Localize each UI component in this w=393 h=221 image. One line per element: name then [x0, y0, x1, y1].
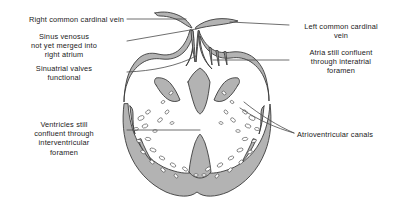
endocardial-cushion-left — [155, 78, 181, 102]
label-right-common-cardinal-vein: Right common cardinal vein — [4, 15, 124, 24]
leader-sinus-venosus — [127, 29, 196, 41]
label-atria-confluent: Atria still confluent through interatria… — [292, 48, 390, 76]
right-common-cardinal-vein-shape — [155, 12, 192, 28]
label-left-common-cardinal-vein: Left common cardinal vein — [292, 22, 390, 40]
label-ventricles-confluent: Ventricles still confluent through inter… — [4, 120, 124, 157]
heart-wall-group — [123, 12, 271, 196]
label-atrioventricular-canals: Atrioventricular canals — [297, 130, 392, 139]
sinuatrial-valve-right — [196, 31, 199, 62]
left-atrium-wall — [124, 30, 194, 102]
left-common-cardinal-vein-shape — [196, 19, 238, 29]
label-sinus-venosus: Sinus venosus not yet merged into right … — [4, 32, 124, 60]
interventricular-septum — [189, 134, 211, 178]
label-sinuatrial-valves: Sinuatrial valves functional — [4, 64, 124, 82]
figure-canvas: Right common cardinal vein Sinus venosus… — [0, 0, 393, 221]
leader-left-common-cardinal-vein — [230, 22, 289, 25]
interatrial-septum — [188, 68, 210, 114]
endocardial-cushion-right — [214, 78, 240, 102]
